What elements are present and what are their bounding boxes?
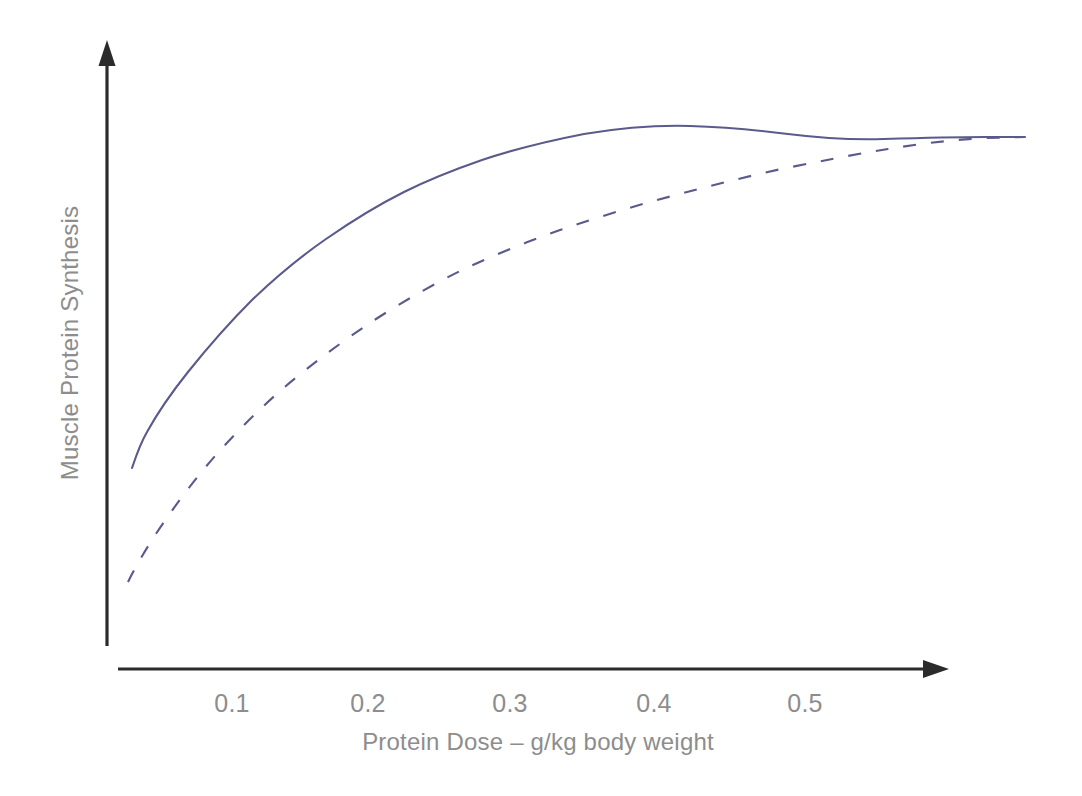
dose-response-chart: 0.1 0.2 0.3 0.4 0.5 Protein Dose – g/kg …: [0, 0, 1082, 796]
series-solid-curve: [132, 126, 1025, 468]
y-axis-title: Muscle Protein Synthesis: [56, 206, 83, 480]
x-axis-arrow-icon: [923, 660, 949, 678]
series-dashed-curve: [128, 137, 1025, 582]
axis-group: [99, 40, 950, 678]
x-tick-label-4: 0.5: [787, 689, 822, 717]
x-tick-label-3: 0.4: [636, 689, 671, 717]
y-axis-arrow-icon: [99, 40, 116, 66]
chart-figure: 0.1 0.2 0.3 0.4 0.5 Protein Dose – g/kg …: [0, 0, 1082, 796]
x-tick-label-0: 0.1: [214, 689, 249, 717]
series-group: [128, 126, 1025, 582]
x-axis-title: Protein Dose – g/kg body weight: [362, 728, 714, 755]
x-tick-label-2: 0.3: [492, 689, 527, 717]
x-tick-label-group: 0.1 0.2 0.3 0.4 0.5: [214, 689, 822, 717]
x-tick-label-1: 0.2: [350, 689, 385, 717]
